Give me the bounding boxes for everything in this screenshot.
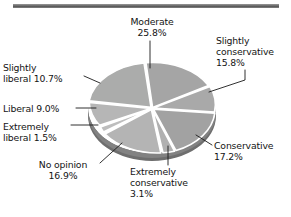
pie-label-conservative: Conservative 17.2% [214,140,291,162]
chart-page: Moderate 25.8% Slightly conservative 15.… [0,0,291,217]
leader-line-slightly-liberal [84,76,100,83]
pie-slices [89,63,215,153]
pie-label-liberal: Liberal 9.0% [3,103,75,114]
leader-line-slightly-conservative [209,70,245,92]
pie-label-moderate: Moderate 25.8% [112,16,192,38]
pie-label-slightly-conservative: Slightly conservative 15.8% [216,35,291,69]
pie-label-slightly-liberal: Slightly liberal 10.7% [3,62,81,84]
pie-label-extremely-liberal: Extremely liberal 1.5% [3,121,75,143]
pie-label-no-opinion: No opinion 16.9% [24,159,102,181]
pie-slice-slightly-liberal [89,63,151,107]
pie-label-extremely-conservative: Extremely conservative 3.1% [130,166,208,200]
